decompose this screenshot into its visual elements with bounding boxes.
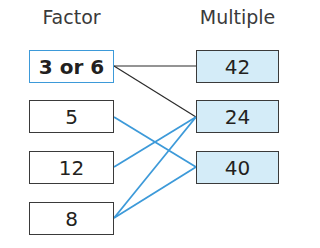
multiple-box-24: 24 bbox=[196, 100, 279, 133]
link-3or6-24 bbox=[114, 66, 196, 117]
multiple-box-40: 40 bbox=[196, 151, 279, 184]
factor-box-12: 12 bbox=[29, 151, 114, 184]
factor-box-8: 8 bbox=[29, 202, 114, 235]
multiple-box-42: 42 bbox=[196, 50, 279, 83]
link-8-24 bbox=[114, 117, 196, 218]
factor-box-5: 5 bbox=[29, 100, 114, 133]
factor-box-3-or-6: 3 or 6 bbox=[29, 50, 114, 83]
link-8-40 bbox=[114, 167, 196, 218]
